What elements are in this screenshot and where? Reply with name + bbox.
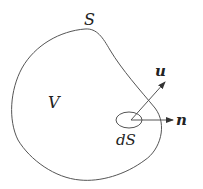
normal-label: n [176, 111, 187, 129]
surface-boundary [12, 29, 162, 180]
volume-label: V [48, 93, 61, 112]
surface-element-label: dS [116, 131, 136, 149]
surface-label: S [84, 10, 95, 29]
velocity-vector-arrow [131, 82, 165, 120]
control-volume-diagram: S V dS u n [0, 0, 203, 189]
velocity-label: u [155, 62, 166, 80]
